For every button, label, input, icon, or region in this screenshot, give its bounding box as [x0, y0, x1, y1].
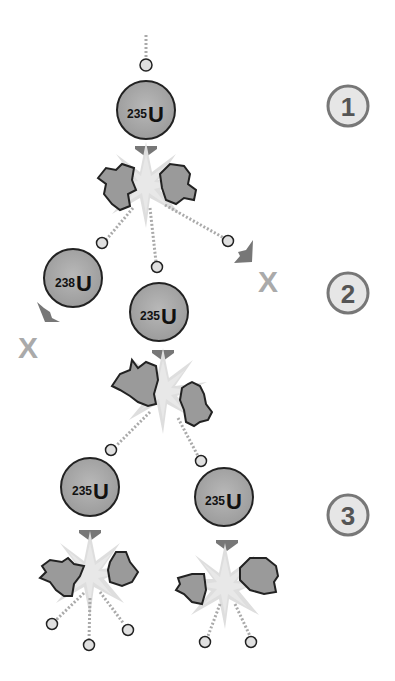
mass-number: 235 — [127, 107, 147, 121]
neutron — [84, 640, 95, 651]
nucleus-u235-bottom-right: 235 U — [195, 468, 253, 526]
arrow-down-icon — [216, 540, 238, 551]
fission-fragment — [98, 164, 136, 210]
fission-fragment — [240, 558, 278, 594]
neutron — [223, 236, 234, 247]
svg-text:235: 235 — [205, 494, 225, 508]
neutron-lost-mark: X — [258, 265, 278, 298]
svg-text:U: U — [226, 489, 242, 514]
fission-diagram: 235 U X 1 238 U X 235 U 2 235 — [0, 0, 395, 681]
incoming-neutron — [140, 59, 152, 71]
neutron — [196, 456, 207, 467]
svg-text:2: 2 — [341, 279, 355, 309]
svg-text:235: 235 — [72, 484, 92, 498]
svg-text:U: U — [93, 479, 109, 504]
neutron — [246, 637, 257, 648]
nucleus-u235-mid: 235 U — [130, 283, 188, 341]
neutron — [123, 625, 134, 636]
svg-text:3: 3 — [341, 501, 355, 531]
step-marker-2: 2 — [328, 273, 368, 313]
fission-fragment — [112, 360, 158, 406]
element-symbol: U — [148, 102, 164, 127]
escape-arrow-icon — [234, 240, 253, 263]
nucleus-u238-left: 238 U — [44, 249, 102, 307]
svg-text:U: U — [76, 271, 92, 296]
escape-arrow-icon — [37, 302, 60, 322]
neutron — [97, 238, 108, 249]
fission-fragment — [176, 574, 206, 604]
nucleus-u235-bottom-left: 235 U — [61, 458, 119, 516]
fission-fragment — [180, 382, 212, 426]
neutron — [200, 637, 211, 648]
neutron — [47, 619, 58, 630]
svg-text:235: 235 — [140, 309, 160, 323]
neutron — [106, 445, 117, 456]
svg-text:1: 1 — [341, 92, 355, 122]
step-marker-1: 1 — [328, 86, 368, 126]
neutron — [152, 262, 163, 273]
svg-text:238: 238 — [55, 276, 75, 290]
step-marker-3: 3 — [328, 495, 368, 535]
fission-fragment — [108, 552, 138, 586]
neutron-lost-mark: X — [18, 331, 38, 364]
fission-fragment — [160, 164, 196, 204]
nucleus-u235-top: 235 U — [117, 81, 175, 139]
svg-text:U: U — [161, 304, 177, 329]
